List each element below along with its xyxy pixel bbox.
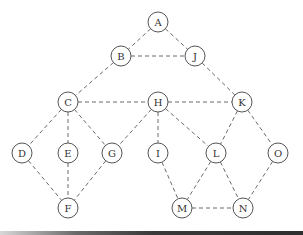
- graph-diagram: ABJCHKDEGILOFMN: [0, 0, 303, 235]
- edge-c-d: [29, 109, 62, 145]
- node-l: L: [206, 143, 226, 163]
- node-n: N: [233, 198, 253, 218]
- node-label: C: [64, 97, 72, 108]
- node-m: M: [172, 198, 192, 218]
- node-label: A: [153, 17, 162, 28]
- node-label: M: [177, 203, 187, 214]
- node-label: H: [154, 97, 163, 108]
- edge-c-g: [75, 110, 106, 146]
- node-i: I: [148, 143, 168, 163]
- edge-b-c: [76, 63, 114, 96]
- node-f: F: [58, 198, 78, 218]
- node-label: E: [64, 148, 71, 159]
- node-d: D: [12, 143, 32, 163]
- edge-h-g: [119, 109, 152, 145]
- edge-o-n: [248, 161, 272, 199]
- node-label: O: [274, 148, 282, 159]
- edges-layer: [28, 29, 272, 208]
- node-label: L: [213, 148, 220, 159]
- node-label: F: [65, 203, 72, 214]
- node-label: G: [108, 148, 116, 159]
- edge-g-f: [74, 161, 106, 200]
- node-label: J: [192, 51, 197, 62]
- edge-i-m: [162, 162, 178, 199]
- node-label: N: [239, 203, 248, 214]
- node-label: B: [117, 51, 124, 62]
- node-label: K: [238, 97, 246, 108]
- edge-k-o: [248, 110, 272, 145]
- node-k: K: [232, 92, 252, 112]
- node-c: C: [58, 92, 78, 112]
- node-a: A: [148, 12, 168, 32]
- node-label: D: [18, 148, 26, 159]
- node-b: B: [111, 46, 131, 66]
- node-label: I: [156, 148, 160, 159]
- node-g: G: [102, 143, 122, 163]
- nodes-layer: ABJCHKDEGILOFMN: [12, 12, 288, 218]
- edge-a-b: [128, 29, 150, 49]
- node-o: O: [268, 143, 288, 163]
- node-j: J: [185, 46, 205, 66]
- bottom-divider-bar: [0, 231, 303, 235]
- edge-k-l: [221, 111, 238, 144]
- node-h: H: [148, 92, 168, 112]
- edge-d-f: [28, 161, 61, 201]
- edge-h-l: [166, 109, 209, 147]
- node-e: E: [58, 143, 78, 163]
- edge-l-n: [220, 162, 238, 199]
- edge-j-k: [202, 63, 235, 95]
- edge-a-j: [165, 29, 187, 49]
- edge-l-m: [187, 162, 210, 200]
